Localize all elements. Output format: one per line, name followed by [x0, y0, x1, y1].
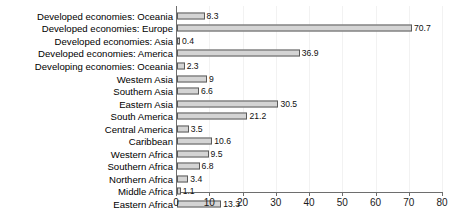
category-label: Western Asia [117, 73, 173, 84]
bar-row: Western Asia9 [0, 72, 460, 85]
bar [177, 88, 199, 95]
x-axis-tick [409, 193, 410, 196]
x-axis-tick [342, 193, 343, 196]
bar-value-label: 1.1 [183, 186, 195, 196]
category-label: Southern Asia [113, 86, 173, 97]
bar-row: Caribbean10.6 [0, 135, 460, 148]
bar-value-label: 21.2 [249, 111, 266, 121]
bar [177, 62, 185, 69]
bar [177, 175, 188, 182]
bar-value-label: 70.7 [414, 23, 431, 33]
bar [177, 188, 181, 195]
bar [177, 113, 247, 120]
bar-row: Developed economies: Oceania8.3 [0, 10, 460, 23]
bar-value-label: 6.8 [202, 161, 214, 171]
x-axis-tick-label: 0 [173, 197, 179, 208]
category-label: Eastern Africa [113, 199, 173, 210]
category-label: Western Africa [111, 148, 173, 159]
bar-row: Southern Africa6.8 [0, 160, 460, 173]
bar-value-label: 30.5 [280, 99, 297, 109]
category-label: Developed economies: Oceania [37, 10, 173, 21]
x-axis-tick [309, 193, 310, 196]
bar [177, 75, 207, 82]
bar [177, 100, 278, 107]
category-label: Southern Africa [107, 161, 173, 172]
x-axis-tick [276, 193, 277, 196]
bar [177, 150, 209, 157]
category-label: Northern Africa [109, 173, 173, 184]
bar-value-label: 6.6 [201, 86, 213, 96]
bar [177, 12, 205, 19]
bar [177, 125, 189, 132]
x-axis-tick [209, 193, 210, 196]
bar-row: Eastern Asia30.5 [0, 97, 460, 110]
horizontal-bar-chart: Developed economies: Oceania8.3Developed… [0, 0, 460, 215]
bar-row: Developed economies: America36.9 [0, 47, 460, 60]
bar-row: Developed economies: Europe70.7 [0, 22, 460, 35]
category-label: Caribbean [129, 136, 173, 147]
bar-value-label: 9 [209, 74, 214, 84]
bar [177, 163, 200, 170]
x-axis-tick [243, 193, 244, 196]
x-axis-tick-label: 20 [237, 197, 248, 208]
bar-value-label: 8.3 [207, 11, 219, 21]
category-label: Developed economies: America [38, 48, 173, 59]
x-axis-tick-label: 40 [303, 197, 314, 208]
category-label: Developing economies: Oceania [35, 60, 173, 71]
bar-value-label: 3.5 [191, 124, 203, 134]
category-label: South America [111, 111, 173, 122]
x-axis-tick [442, 193, 443, 196]
category-label: Central America [105, 123, 173, 134]
x-axis-tick-label: 30 [270, 197, 281, 208]
bar-row: Southern Asia6.6 [0, 85, 460, 98]
bar-row: Middle Africa1.1 [0, 185, 460, 198]
x-axis-tick-label: 70 [403, 197, 414, 208]
bar-row: Developing economies: Oceania2.3 [0, 60, 460, 73]
bar-value-label: 36.9 [302, 48, 319, 58]
bar-row: Developed economies: Asia0.4 [0, 35, 460, 48]
bar-row: Eastern Africa13.3 [0, 198, 460, 211]
category-label: Middle Africa [118, 186, 173, 197]
category-label: Eastern Asia [119, 98, 173, 109]
bar-row: South America21.2 [0, 110, 460, 123]
x-axis-tick-label: 80 [436, 197, 447, 208]
bar-value-label: 10.6 [214, 136, 231, 146]
x-axis-tick [376, 193, 377, 196]
category-label: Developed economies: Asia [55, 35, 173, 46]
category-label: Developed economies: Europe [42, 23, 173, 34]
bar-value-label: 0.4 [182, 36, 194, 46]
bar [177, 37, 180, 44]
x-axis-tick-label: 10 [204, 197, 215, 208]
x-axis-tick-label: 60 [370, 197, 381, 208]
bar [177, 50, 300, 57]
x-axis-tick [176, 193, 177, 196]
bar [177, 138, 212, 145]
bar-row: Northern Africa3.4 [0, 173, 460, 186]
bar-value-label: 3.4 [190, 174, 202, 184]
bar-value-label: 2.3 [187, 61, 199, 71]
bar-value-label: 9.5 [211, 149, 223, 159]
bar [177, 25, 412, 32]
x-axis-tick-label: 50 [337, 197, 348, 208]
bar-row: Western Africa9.5 [0, 148, 460, 161]
bar-row: Central America3.5 [0, 122, 460, 135]
